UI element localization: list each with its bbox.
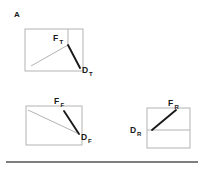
flap-force-label-subscript: F [61, 102, 65, 108]
flap-diagram: F F D F [26, 96, 92, 145]
rotation-diagram: F R D R [130, 98, 190, 148]
flap-force-label: F [54, 96, 59, 106]
thrust-force-label: F [53, 33, 58, 43]
rotation-displacement-label-subscript: R [137, 131, 142, 137]
thrust-thin-diagonal [31, 45, 68, 66]
flap-displacement-label-subscript: F [88, 138, 92, 144]
thrust-vector-line [68, 45, 80, 68]
figure-svg: A F T D T F F D F F R [0, 0, 204, 172]
flap-displacement-label: D [81, 132, 87, 142]
rotation-displacement-label: D [130, 125, 136, 135]
panel-letter-a: A [14, 10, 20, 19]
flap-thin-diagonal [28, 110, 77, 133]
rotation-force-label: F [168, 98, 173, 108]
thrust-force-label-subscript: T [60, 39, 64, 45]
thrust-displacement-label: D [82, 65, 88, 75]
thrust-displacement-label-subscript: T [89, 71, 93, 77]
rotation-force-label-subscript: R [175, 104, 180, 110]
rotation-vector-line [152, 110, 176, 130]
figure-container: A F T D T F F D F F R [0, 0, 204, 172]
thrust-diagram: F T D T [25, 29, 93, 77]
